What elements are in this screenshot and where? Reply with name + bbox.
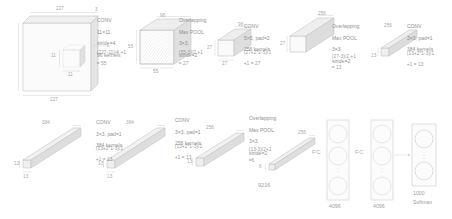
conv3-depth-label: 384 <box>42 120 50 125</box>
conv5-eq-0: (13+2*1-3)/1 <box>175 144 202 149</box>
pool2-line-1: Max POOL <box>332 35 357 41</box>
fc1-units-label: 4096 <box>329 203 341 209</box>
conv5-equation: (13+2*1-3)/1 +1 = 13 <box>172 138 202 161</box>
pool1-eq-0: (55-3)/2 +1 <box>179 50 203 55</box>
fc2-units-label: 4096 <box>373 203 385 209</box>
flatten-label: 9216 <box>258 182 270 189</box>
pool3-eq-1: =6 <box>249 158 255 163</box>
conv3-eq-1: +1 = 13 <box>407 62 424 67</box>
pool3-eq-0: (13-3)/2+1 <box>249 147 272 152</box>
conv1-eq-0: (227-11)/4 +1 <box>97 50 126 55</box>
pool1-line-1: Max POOL <box>179 29 204 35</box>
conv3-line-1: 3×3, pad=1 <box>407 35 433 41</box>
pool3-line-0: Overlapping <box>249 115 277 121</box>
conv5-line-1: 3×3, pad=1 <box>175 129 201 135</box>
conv4-line-0: CONV <box>96 119 111 125</box>
pool3-depth-label: 256 <box>298 130 306 135</box>
pool2-equation: (27-3)/2 +1 = 13 <box>329 48 356 71</box>
conv5-line-0: CONV <box>175 117 190 123</box>
conv1-depth-label: 96 <box>160 13 165 18</box>
fc2-column <box>371 120 393 200</box>
input-width-label: 227 <box>56 6 64 11</box>
alexnet-architecture-diagram <box>0 0 452 219</box>
pool3-equation: (13-3)/2+1 =6 <box>246 141 272 164</box>
fc2-label: FC <box>355 148 364 155</box>
input-patch-height-label: 11 <box>51 53 56 58</box>
conv5-depth-label: 256 <box>206 125 214 130</box>
conv4-height-label: 13 <box>98 161 103 166</box>
pool2-depth-label: 256 <box>384 23 392 28</box>
conv1-line-0: CONV <box>97 17 112 23</box>
pool2-eq-0: (27-3)/2 +1 <box>332 54 356 59</box>
conv2-depth-label: 256 <box>318 11 326 16</box>
conv1-line-1: 11×11, <box>97 29 112 35</box>
output-activation-label: Softmax <box>413 199 432 205</box>
conv2-eq-0: (27+2*2-5)/1 <box>244 50 271 55</box>
conv4-equation: (13+2*1-3)/1 +1 = 13 <box>93 140 123 163</box>
conv2-height-label: 27 <box>280 41 285 46</box>
conv4-eq-0: (13+2*1-3)/1 <box>96 146 123 151</box>
conv1-height-label: 55 <box>128 44 133 49</box>
output-units-label: 1000 <box>413 190 425 196</box>
conv1-equation: (227-11)/4 +1 = 55 <box>94 44 126 67</box>
pool2-height-label: 13 <box>371 53 376 58</box>
conv4-line-1: 3×3, pad=1 <box>96 131 122 137</box>
pool1-height-label: 27 <box>207 45 212 50</box>
pool1-width-label: 27 <box>222 61 227 66</box>
conv2-volume <box>287 16 334 53</box>
fc1-label: FC <box>312 148 321 155</box>
conv3-line-0: CONV <box>407 23 422 29</box>
fc1-column <box>327 120 349 200</box>
softmax-column <box>394 124 436 186</box>
pool1-line-0: Overlapping <box>179 17 207 23</box>
conv5-height-label: 13 <box>187 159 192 164</box>
input-volume <box>19 13 99 96</box>
conv1-width-label: 55 <box>153 69 158 74</box>
conv2-equation: (27+2*2-5)/1 +1 = 27 <box>241 44 271 67</box>
pool1-equation: (55-3)/2 +1 = 27 <box>176 44 203 67</box>
pool2-eq-1: = 13 <box>332 65 342 70</box>
conv3-eq-0: (13+2*1-3)/1 <box>407 51 434 56</box>
conv3-volume <box>20 126 82 173</box>
conv3-width-label: 13 <box>23 174 28 179</box>
pool3-height-label: 6 <box>259 164 262 169</box>
input-patch-width-label: 11 <box>68 72 73 77</box>
conv4-width-label: 13 <box>107 174 112 179</box>
pool3-line-1: Max POOL <box>249 127 274 133</box>
conv4-depth-label: 384 <box>126 120 134 125</box>
conv3-equation: (13+2*1-3)/1 +1 = 13 <box>404 45 434 68</box>
pool1-eq-1: = 27 <box>179 61 189 66</box>
conv3-height-label: 13 <box>14 161 19 166</box>
conv2-line-1: 5×5, pad=2 <box>244 35 270 41</box>
input-height-label: 227 <box>50 97 58 102</box>
conv2-eq-1: +1 = 27 <box>244 61 261 66</box>
pool2-line-0: Overlapping <box>332 23 360 29</box>
conv2-line-0: CONV <box>244 23 259 29</box>
conv1-eq-1: = 55 <box>97 61 107 66</box>
